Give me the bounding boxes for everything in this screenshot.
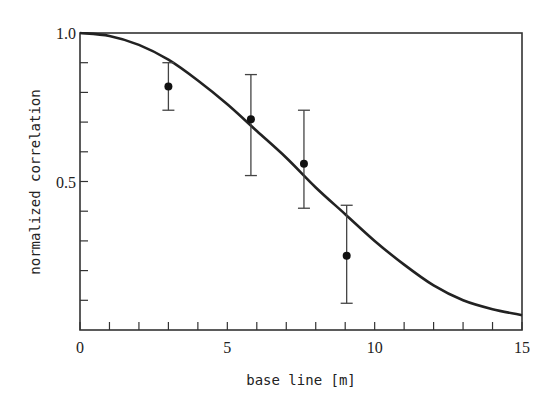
y-axis-label: normalized correlation [27,89,43,274]
model-curve [80,33,522,315]
tick-labels: 0510151.00.5 [56,25,530,356]
x-tick-label: 10 [367,339,383,356]
x-tick-label: 15 [514,339,530,356]
data-point [245,75,257,176]
model-line [80,33,522,315]
data-points [162,63,352,304]
x-tick-label: 0 [76,339,84,356]
point-marker [300,160,308,168]
chart: 0510151.00.5 base line [m] normalized co… [0,0,548,407]
axis-ticks [80,33,522,330]
point-marker [343,252,351,260]
y-tick-label: 0.5 [56,174,76,191]
y-tick-label: 1.0 [56,25,76,42]
point-marker [164,82,172,90]
x-tick-label: 5 [223,339,231,356]
data-point [298,110,310,208]
plot-border [80,33,522,330]
point-marker [247,115,255,123]
x-axis-label: base line [m] [246,372,356,388]
data-point [162,63,174,111]
plot-frame [80,33,522,330]
